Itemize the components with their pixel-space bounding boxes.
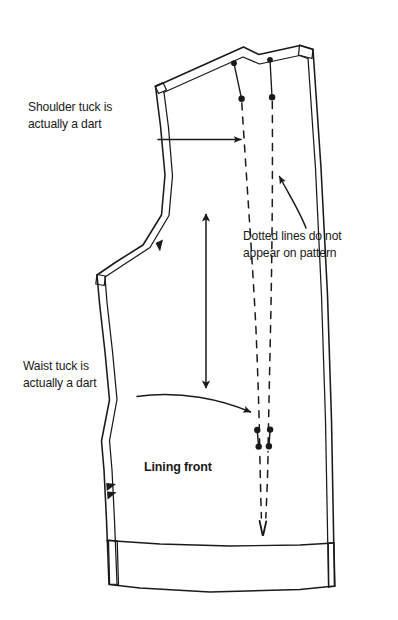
dotted-dart-leg-left [242, 103, 260, 452]
hem-fold-line [107, 541, 334, 547]
tuck-dot-end-right [269, 94, 275, 100]
waist-dot-lower-left [256, 443, 262, 449]
pattern-outline-group [96, 45, 335, 592]
dotted-dart-lines [242, 102, 273, 519]
dart-point-v [260, 521, 267, 535]
seam-allowance-line-armhole [105, 93, 173, 278]
tuck-dot-top-right [267, 57, 273, 63]
waist-dot-lower-right [266, 443, 272, 449]
shoulder-tuck-leg-right [270, 60, 272, 97]
armhole-notch [156, 240, 164, 252]
leader-dotted-lines [280, 177, 307, 229]
callout-waist-tuck: Waist tuck is actually a dart [23, 358, 96, 391]
dart-point-v-right [263, 522, 266, 536]
dart-point-v-left [260, 521, 263, 535]
dotted-dart-leg-left-lower [260, 457, 262, 519]
callout-shoulder-tuck: Shoulder tuck is actually a dart [28, 99, 112, 132]
waist-dot-upper-right [267, 426, 273, 432]
waist-tuck-dots [254, 426, 273, 449]
dotted-dart-leg-right-lower [266, 457, 268, 519]
pattern-diagram [0, 0, 398, 620]
shoulder-tuck-leg-left [234, 64, 242, 99]
side-seam-notch-lower [107, 492, 117, 500]
cutting-line [97, 46, 335, 593]
tuck-dot-end-left [238, 96, 244, 102]
side-seam-notch-upper [106, 483, 116, 491]
figure-canvas: Shoulder tuck is actually a dart Dotted … [0, 0, 398, 620]
callout-dotted-lines: Dotted lines do not appear on pattern [243, 228, 342, 261]
pattern-piece-label: Lining front [144, 458, 212, 475]
dotted-dart-leg-right [268, 102, 272, 453]
shoulder-tuck-markings [234, 60, 272, 99]
tuck-dot-top-left [231, 60, 237, 66]
leader-waist-tuck [137, 394, 251, 412]
callout-leaders [137, 140, 306, 413]
waist-dot-upper-left [254, 427, 260, 433]
